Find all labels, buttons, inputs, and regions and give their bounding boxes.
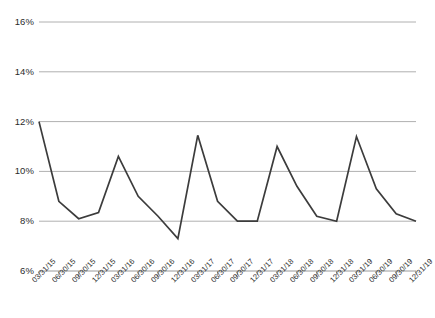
y-axis-tick-label: 8%: [0, 216, 34, 226]
y-axis-tick-label: 6%: [0, 266, 34, 276]
y-axis-tick-label: 12%: [0, 117, 34, 127]
y-axis-tick-label: 16%: [0, 17, 34, 27]
y-axis-tick-label: 14%: [0, 67, 34, 77]
y-axis-tick-label: 10%: [0, 166, 34, 176]
